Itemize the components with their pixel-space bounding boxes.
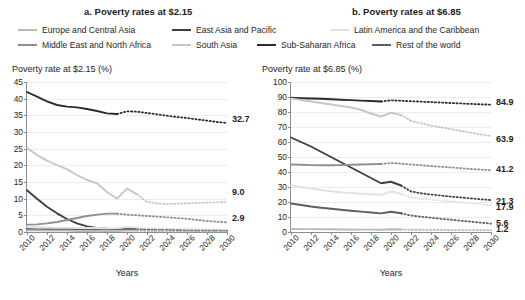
legend-label-sa: South Asia <box>196 41 237 50</box>
legend-label-eap: East Asia and Pacific <box>196 26 276 35</box>
legend-label-ssa: Sub-Saharan Africa <box>281 41 356 50</box>
x-axis-title-a: Years <box>27 268 227 278</box>
legend-swatch-sa <box>172 44 191 46</box>
y-tick-label: 20 <box>278 197 287 207</box>
x-tick-label: 2030 <box>218 233 237 252</box>
x-tick-label: 2020 <box>118 233 137 252</box>
y-tick-label: 0 <box>18 227 23 237</box>
chart-figure: a. Poverty rates at $2.15 b. Poverty rat… <box>0 0 525 300</box>
y-axis-title-a: Poverty rate at $2.15 (%) <box>12 64 112 74</box>
series-line-eap <box>291 138 401 186</box>
series-line-ssa-projected <box>117 111 227 123</box>
legend-label-lac: Latin America and the Caribbean <box>354 26 479 35</box>
y-tick-label: 30 <box>14 127 23 137</box>
legend-item-sa[interactable]: South Asia <box>172 41 237 50</box>
series-line-lac <box>291 186 401 195</box>
chart-legend: Europe and Central AsiaEast Asia and Pac… <box>0 26 525 60</box>
y-tick-label: 60 <box>278 137 287 147</box>
x-tick-label: 2020 <box>382 233 401 252</box>
x-tick-label: 2018 <box>98 233 117 252</box>
y-tick-label: 30 <box>278 182 287 192</box>
y-tick-label: 25 <box>14 144 23 154</box>
y-tick-label: 15 <box>14 177 23 187</box>
legend-swatch-eca <box>18 29 37 31</box>
y-tick-label: 10 <box>14 194 23 204</box>
legend-label-mena: Middle East and North Africa <box>42 41 151 50</box>
y-tick-label: 5 <box>18 210 23 220</box>
y-tick-label: 10 <box>278 212 287 222</box>
x-tick-label: 2024 <box>422 233 441 252</box>
legend-swatch-lac <box>330 29 349 31</box>
end-label-mena: 2.9 <box>232 213 245 223</box>
series-line-eca <box>291 229 401 230</box>
y-tick-label: 90 <box>278 92 287 102</box>
x-tick-label: 2012 <box>38 233 57 252</box>
end-label-sa: 63.9 <box>496 134 514 144</box>
legend-item-mena[interactable]: Middle East and North Africa <box>18 41 151 50</box>
legend-item-lac[interactable]: Latin America and the Caribbean <box>330 26 479 35</box>
series-line-sa-projected <box>137 194 227 204</box>
legend-label-eca: Europe and Central Asia <box>42 26 135 35</box>
y-tick-label: 80 <box>278 107 287 117</box>
legend-item-ssa[interactable]: Sub-Saharan Africa <box>257 41 356 50</box>
legend-item-eap[interactable]: East Asia and Pacific <box>172 26 276 35</box>
x-tick-label: 2026 <box>178 233 197 252</box>
series-layer <box>291 82 491 232</box>
series-line-ssa-projected <box>381 100 491 104</box>
series-line-eca-projected <box>137 231 227 232</box>
x-tick-label: 2026 <box>442 233 461 252</box>
x-tick-label: 2028 <box>462 233 481 252</box>
chart-panel-a: Poverty rate at $2.15 (%) Years 05101520… <box>0 64 262 300</box>
series-line-row <box>291 204 401 214</box>
series-line-eca-projected <box>401 229 491 230</box>
x-axis-title-b: Years <box>291 268 491 278</box>
x-tick-label: 2022 <box>138 233 157 252</box>
end-label-mena: 41.2 <box>496 164 514 174</box>
legend-item-eca[interactable]: Europe and Central Asia <box>18 26 135 35</box>
chart-panel-b: Poverty rate at $6.85 (%) Years 01020304… <box>258 64 525 300</box>
y-tick-label: 40 <box>278 167 287 177</box>
y-tick-label: 0 <box>282 227 287 237</box>
x-tick-label: 2030 <box>482 233 501 252</box>
plot-area-a: Years 0510152025303540452010201220142016… <box>26 82 227 233</box>
panel-b-title: b. Poverty rates at $6.85 <box>352 6 461 17</box>
series-line-sa <box>27 148 137 199</box>
series-line-eca <box>27 230 137 231</box>
series-line-lac <box>27 227 137 229</box>
y-axis-title-b: Poverty rate at $6.85 (%) <box>262 64 362 74</box>
x-tick-label: 2016 <box>342 233 361 252</box>
y-tick-label: 100 <box>273 77 287 87</box>
x-tick-label: 2016 <box>78 233 97 252</box>
y-tick-label: 70 <box>278 122 287 132</box>
end-label-sa: 9.0 <box>232 187 245 197</box>
x-tick-label: 2012 <box>302 233 321 252</box>
x-tick-label: 2022 <box>402 233 421 252</box>
panel-a-title: a. Poverty rates at $2.15 <box>84 6 192 17</box>
legend-swatch-ssa <box>257 44 276 46</box>
y-tick-label: 45 <box>14 77 23 87</box>
legend-swatch-mena <box>18 44 37 46</box>
x-tick-label: 2014 <box>322 233 341 252</box>
end-label-lac: 17.9 <box>496 202 514 212</box>
y-tick-label: 20 <box>14 160 23 170</box>
series-line-sa-projected <box>401 115 491 136</box>
series-layer <box>27 82 227 232</box>
plot-area-b: Years 0102030405060708090100201020122014… <box>290 82 491 233</box>
legend-swatch-eap <box>172 29 191 31</box>
y-tick-label: 50 <box>278 152 287 162</box>
end-label-ssa: 32.7 <box>232 114 250 124</box>
x-tick-label: 2024 <box>158 233 177 252</box>
legend-item-row[interactable]: Rest of the world <box>372 41 460 50</box>
series-line-mena-projected <box>117 214 227 223</box>
y-tick-label: 40 <box>14 94 23 104</box>
legend-swatch-row <box>372 44 391 46</box>
series-line-ssa <box>27 92 117 114</box>
x-tick-label: 2018 <box>362 233 381 252</box>
series-line-mena <box>291 164 381 165</box>
series-line-row-projected <box>401 213 491 223</box>
end-label-eca: 1.2 <box>496 224 509 234</box>
y-tick-label: 35 <box>14 110 23 120</box>
legend-label-row: Rest of the world <box>396 41 460 50</box>
x-tick-label: 2028 <box>198 233 217 252</box>
end-label-ssa: 84.9 <box>496 97 514 107</box>
